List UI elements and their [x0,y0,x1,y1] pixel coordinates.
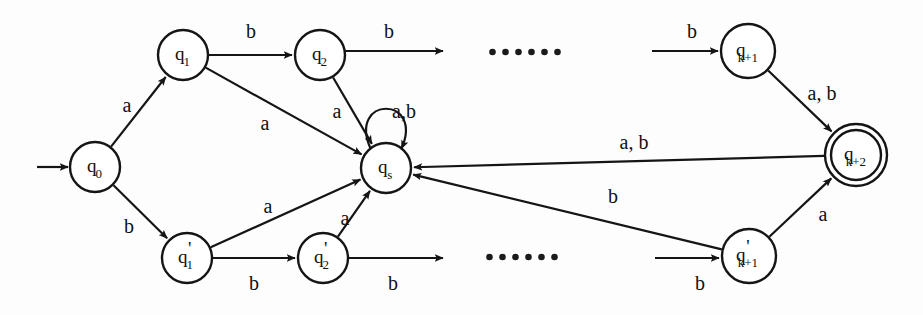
transition-label-t-in-qk1p: b [695,272,705,294]
automaton-canvas: q0q1q2qk+1qsqk+2q'1q'2q'k+1 abbbaaa,bba,… [0,0,923,315]
nodes-layer: q0q1q2qk+1qsqk+2q'1q'2q'k+1 [70,24,887,283]
state-subscript-qk2: k+2 [846,154,866,169]
state-subscript-qk1p: k+1 [738,255,758,270]
transition-t-qk1p-qs [413,175,722,250]
transition-t-qk2-qs [414,156,824,167]
transition-label-t-q0-q1p: b [124,215,134,237]
automaton-diagram: q0q1q2qk+1qsqk+2q'1q'2q'k+1 abbbaaa,bba,… [0,0,923,315]
transition-label-t-q1p-qs: a [264,195,273,217]
transition-label-t-qs-self: a,b [392,100,416,122]
transition-label-t-q1-qs: a [261,112,270,134]
transition-t-q0-q1 [111,77,166,147]
edges-layer [37,55,832,258]
transition-label-t-qk1-qk2: a, b [808,82,837,104]
state-qs[interactable]: qs [361,143,411,193]
transition-label-t-q2-qs: a [333,100,342,122]
state-subscript-q1: 1 [183,54,190,69]
state-q1p[interactable]: q'1 [162,233,212,283]
transition-t-q0-q1p [113,185,167,238]
transition-label-t-q1p-q2p: b [249,272,259,294]
state-subscript-q0: 0 [95,166,102,181]
state-subscript-qs: s [387,167,392,182]
state-qk1p[interactable]: q'k+1 [722,229,776,283]
transition-label-t-q2p-qs: a [341,207,350,229]
transition-label-t-q1-q2: b [246,20,256,42]
state-subscript-qk1: k+1 [738,50,758,65]
transition-label-t-q2p-out: b [388,272,398,294]
state-q0[interactable]: q0 [70,142,120,192]
state-subscript-q1p: 1 [186,257,193,272]
transition-label-t-qk1p-qs: b [608,185,618,207]
state-subscript-q2p: 2 [322,257,329,272]
state-qk2[interactable]: qk+2 [825,124,887,186]
transition-label-t-q0-q1: a [123,94,132,116]
ellipses-layer [486,49,561,261]
state-q2p[interactable]: q'2 [298,233,348,283]
transition-label-t-in-qk1: b [687,20,697,42]
state-subscript-q2: 2 [320,54,327,69]
ellipsis-top [489,49,561,56]
transition-label-t-q2-out: b [384,20,394,42]
transition-label-t-qk1p-qk2: a [819,203,828,225]
ellipsis-bottom [486,254,558,261]
state-q1[interactable]: q1 [158,30,208,80]
state-qk1[interactable]: qk+1 [721,24,775,78]
state-q2[interactable]: q2 [295,30,345,80]
transition-label-t-qk2-qs: a, b [620,131,649,153]
